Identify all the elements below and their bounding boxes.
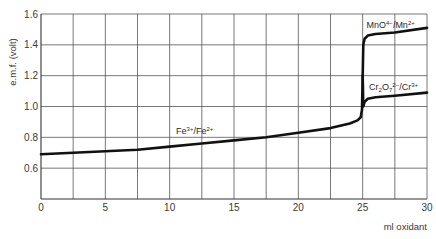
y-tick-label: 0.8 — [24, 132, 38, 143]
y-axis-label: e.m.f. (volt) — [7, 38, 18, 86]
y-tick-label: 0.6 — [24, 163, 38, 174]
y-tick-label: 1.0 — [24, 101, 38, 112]
x-tick-label: 0 — [38, 202, 44, 213]
annotation-mno4-mn2: MnO4−/Mn2+ — [367, 20, 416, 30]
titration-chart: 0510152025300.60.81.01.21.41.6 e.m.f. (v… — [0, 0, 436, 239]
x-tick-label: 5 — [103, 202, 109, 213]
x-tick-label: 10 — [164, 202, 176, 213]
y-tick-label: 1.2 — [24, 70, 38, 81]
grid — [41, 14, 427, 199]
tick-labels: 0510152025300.60.81.01.21.41.6 — [24, 9, 433, 214]
x-tick-label: 30 — [421, 202, 433, 213]
x-tick-label: 25 — [357, 202, 369, 213]
x-axis-label: ml oxidant — [384, 221, 428, 232]
x-tick-label: 20 — [293, 202, 305, 213]
annotation-fe3-fe2: Fe3+/Fe2+ — [176, 126, 214, 136]
y-tick-label: 1.4 — [24, 39, 38, 50]
x-tick-label: 15 — [228, 202, 240, 213]
y-tick-label: 1.6 — [24, 9, 38, 20]
annotation-cr2o7-cr3: Cr2O72−/Cr3+ — [369, 82, 418, 93]
